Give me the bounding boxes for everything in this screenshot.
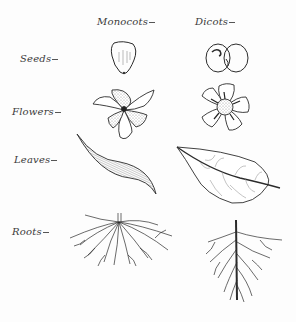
dicot-flower-icon	[202, 84, 249, 130]
dicot-leaf-icon	[177, 147, 280, 203]
monocot-seed-icon	[111, 42, 135, 74]
monocot-roots-icon	[70, 213, 172, 266]
dicot-roots-icon	[206, 220, 282, 302]
diagram-canvas: Monocots Dicots Seeds Flowers Leaves Roo…	[0, 0, 296, 322]
dicot-seed-icon	[206, 44, 248, 72]
monocot-flower-icon	[93, 90, 154, 139]
illustration	[0, 0, 296, 322]
monocot-leaf-icon	[77, 134, 156, 194]
